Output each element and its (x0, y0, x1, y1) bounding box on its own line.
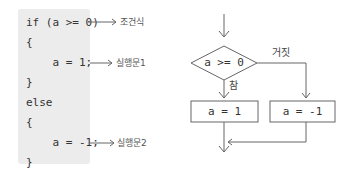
true-label: 참 (229, 80, 238, 91)
false-label: 거짓 (272, 47, 290, 58)
flowchart (0, 0, 356, 172)
decision-label: a >= 0 (191, 56, 257, 69)
true-box-label: a = 1 (191, 105, 258, 118)
false-box-label: a = -1 (270, 105, 335, 118)
